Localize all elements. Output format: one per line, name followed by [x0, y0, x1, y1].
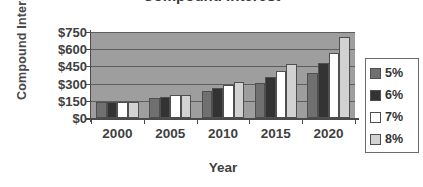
bar-2020-8 — [339, 37, 350, 118]
bar-2005-5 — [149, 98, 160, 118]
legend-swatch-icon — [370, 112, 381, 123]
y-tick-mark — [85, 49, 91, 50]
x-tick-mark — [249, 118, 250, 124]
bar-2010-6 — [212, 88, 223, 118]
y-tick-label: $600 — [58, 43, 87, 56]
chart-title-text: Compound Interest — [0, 0, 423, 4]
bar-2020-6 — [318, 63, 329, 118]
x-tick-label: 2015 — [250, 126, 302, 141]
y-tick-label: $450 — [58, 60, 87, 73]
x-tick-mark — [355, 118, 356, 124]
x-tick-mark — [91, 118, 92, 124]
bar-2000-7 — [117, 102, 128, 118]
legend-item-8[interactable]: 8% — [370, 132, 403, 146]
y-tick-mark — [85, 32, 91, 33]
x-tick-label: 2005 — [144, 126, 196, 141]
y-tick-label: $150 — [58, 95, 87, 108]
legend-swatch-icon — [370, 90, 381, 101]
legend: 5%6%7%8% — [365, 58, 419, 153]
x-axis-title: Year — [91, 160, 355, 175]
legend-label: 5% — [385, 67, 403, 79]
y-tick-mark — [85, 101, 91, 102]
bar-2005-6 — [160, 97, 171, 118]
x-tick-mark — [144, 118, 145, 124]
bar-2015-5 — [255, 83, 266, 118]
legend-swatch-icon — [370, 134, 381, 145]
legend-label: 8% — [385, 133, 403, 145]
legend-label: 6% — [385, 89, 403, 101]
bar-2000-6 — [107, 102, 118, 118]
y-axis-tick-labels: $750$600$450$300$150$0 — [37, 25, 87, 125]
y-tick-label: $300 — [58, 78, 87, 91]
bar-2015-8 — [286, 64, 297, 118]
x-tick-mark — [197, 118, 198, 124]
y-tick-label: $750 — [58, 26, 87, 39]
bar-2015-6 — [265, 77, 276, 118]
bar-2005-8 — [181, 95, 192, 119]
bar-series-container — [91, 32, 355, 118]
x-tick-mark — [302, 118, 303, 124]
x-axis-tick-labels: 20002005201020152020 — [91, 126, 355, 144]
legend-swatch-icon — [370, 68, 381, 79]
legend-label: 7% — [385, 111, 403, 123]
chart-title-clipped: Compound Interest — [0, 0, 423, 4]
bar-2020-7 — [329, 53, 340, 118]
x-tick-label: 2010 — [197, 126, 249, 141]
legend-item-7[interactable]: 7% — [370, 110, 403, 124]
y-axis-title: Compound Interest — [15, 0, 31, 116]
x-axis-line — [86, 118, 359, 120]
bar-2010-5 — [202, 91, 213, 118]
legend-item-6[interactable]: 6% — [370, 88, 403, 102]
bar-2005-7 — [170, 95, 181, 118]
bar-2010-7 — [223, 85, 234, 118]
bar-2020-5 — [307, 73, 318, 118]
bar-2015-7 — [276, 71, 287, 118]
x-tick-label: 2000 — [91, 126, 143, 141]
y-tick-mark — [85, 66, 91, 67]
legend-item-5[interactable]: 5% — [370, 66, 403, 80]
y-tick-mark — [85, 84, 91, 85]
bar-2010-8 — [234, 82, 245, 118]
bar-2000-8 — [128, 102, 139, 118]
bar-2000-5 — [96, 102, 107, 118]
x-tick-label: 2020 — [303, 126, 355, 141]
